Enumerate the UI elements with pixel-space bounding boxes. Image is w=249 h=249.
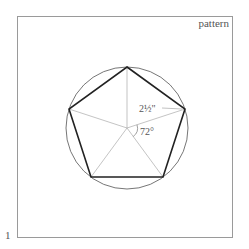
radius-leader — [162, 108, 182, 109]
angle-annotation: 72° — [140, 126, 154, 137]
angle-arc — [133, 125, 137, 137]
pentagon-diagram: 2½" 72° — [0, 0, 249, 249]
radius-annotation: 2½" — [139, 103, 156, 114]
